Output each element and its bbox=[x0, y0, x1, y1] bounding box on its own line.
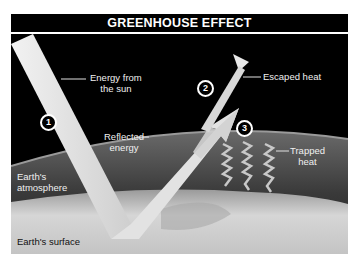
label-escaped-heat: Escaped heat bbox=[263, 71, 321, 82]
step-1-badge: 1 bbox=[40, 114, 57, 131]
illustration-graphic bbox=[11, 34, 348, 254]
label-trapped-heat: Trapped heat bbox=[290, 145, 325, 167]
step-2-badge: 2 bbox=[197, 80, 214, 97]
label-earths-atmosphere: Earth's atmosphere bbox=[17, 171, 67, 193]
diagram-title: GREENHOUSE EFFECT bbox=[11, 14, 348, 32]
label-earths-surface: Earth's surface bbox=[17, 236, 80, 247]
label-energy-from-sun: Energy from the sun bbox=[90, 72, 142, 94]
greenhouse-illustration: Energy from the sun Escaped heat Reflect… bbox=[11, 34, 348, 254]
label-reflected-energy: Reflected energy bbox=[104, 131, 144, 153]
step-3-badge: 3 bbox=[236, 120, 253, 137]
